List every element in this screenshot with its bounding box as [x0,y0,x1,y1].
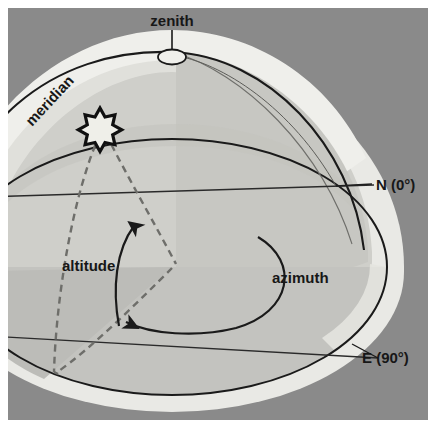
label-east: E (90°) [362,349,409,366]
label-azimuth: azimuth [272,269,329,286]
label-north: N (0°) [376,176,415,193]
zenith-point-icon [158,50,186,65]
star-icon [78,108,121,152]
figure-container: zenith meridian altitude azimuth N (0°) … [0,0,439,430]
label-zenith: zenith [150,12,193,29]
celestial-sphere-diagram: zenith meridian altitude azimuth N (0°) … [0,0,439,430]
label-altitude: altitude [62,257,115,274]
